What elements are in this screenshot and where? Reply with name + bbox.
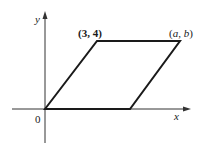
x-axis-arrow-icon xyxy=(183,107,191,112)
point-3-4-label: (3, 4) xyxy=(78,27,102,40)
parallelogram xyxy=(45,41,180,109)
y-axis-label: y xyxy=(34,13,40,25)
y-axis-arrow-icon xyxy=(43,11,48,19)
diagram-canvas: y x 0 (3, 4) (a, b) xyxy=(0,0,203,152)
point-a-b-label: (a, b) xyxy=(169,27,193,40)
x-axis-label: x xyxy=(173,110,179,122)
origin-label: 0 xyxy=(35,113,41,125)
paren-close: ) xyxy=(189,27,193,40)
